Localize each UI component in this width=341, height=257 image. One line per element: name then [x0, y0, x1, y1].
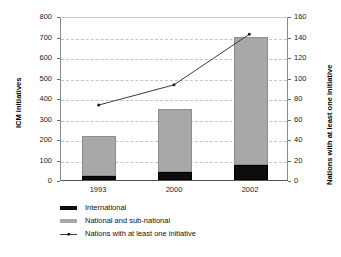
y-tick-label-right: 60 — [294, 116, 320, 124]
y-tick-mark-right — [288, 38, 291, 39]
y-tick-label-right: 20 — [294, 157, 320, 165]
y-tick-label-left: 700 — [26, 34, 52, 42]
y-tick-label-left: 0 — [26, 177, 52, 185]
y-tick-label-left: 800 — [26, 13, 52, 21]
y-tick-mark-left — [57, 181, 60, 182]
legend-swatch-icon-national — [60, 219, 77, 223]
y-tick-label-left: 300 — [26, 116, 52, 124]
y-tick-mark-right — [288, 17, 291, 18]
y-tick-label-left: 400 — [26, 95, 52, 103]
line-series-markers — [97, 33, 250, 106]
chart-container: ICM initiatives Nations with at least on… — [0, 0, 341, 257]
y-tick-mark-right — [288, 120, 291, 121]
y-tick-mark-right — [288, 99, 291, 100]
y-tick-label-right: 140 — [294, 34, 320, 42]
legend-line-marker-icon — [60, 231, 77, 238]
y-tick-mark-right — [288, 181, 291, 182]
line-series-path — [99, 34, 250, 105]
y-tick-mark-right — [288, 140, 291, 141]
y-tick-mark-right — [288, 161, 291, 162]
x-tick-label: 1993 — [68, 185, 128, 194]
legend-label-nations-line: Nations with at least one initiative — [85, 228, 196, 240]
line-data-point-marker — [173, 84, 176, 87]
y-tick-label-right: 160 — [294, 13, 320, 21]
legend-swatch-icon-international — [60, 206, 77, 210]
y-tick-label-left: 100 — [26, 157, 52, 165]
legend-label-international: International — [85, 202, 126, 214]
x-tick-label: 2000 — [144, 185, 204, 194]
y-tick-label-left: 200 — [26, 136, 52, 144]
y-tick-label-left: 500 — [26, 75, 52, 83]
y-tick-label-right: 120 — [294, 54, 320, 62]
x-tick-label: 2002 — [220, 185, 280, 194]
y-tick-label-left: 600 — [26, 54, 52, 62]
y-tick-label-right: 40 — [294, 136, 320, 144]
y-axis-title-right: Nations with at least one initiative — [325, 65, 334, 185]
y-tick-mark-right — [288, 79, 291, 80]
line-series — [61, 18, 287, 180]
y-tick-label-right: 100 — [294, 75, 320, 83]
y-tick-label-right: 0 — [294, 177, 320, 185]
plot-area — [60, 17, 288, 181]
y-axis-title-left: ICM initiatives — [14, 78, 23, 128]
line-data-point-marker — [248, 33, 251, 36]
line-data-point-marker — [97, 104, 100, 107]
y-tick-mark-right — [288, 58, 291, 59]
legend-label-national: National and sub-national — [85, 215, 170, 227]
y-tick-label-right: 80 — [294, 95, 320, 103]
